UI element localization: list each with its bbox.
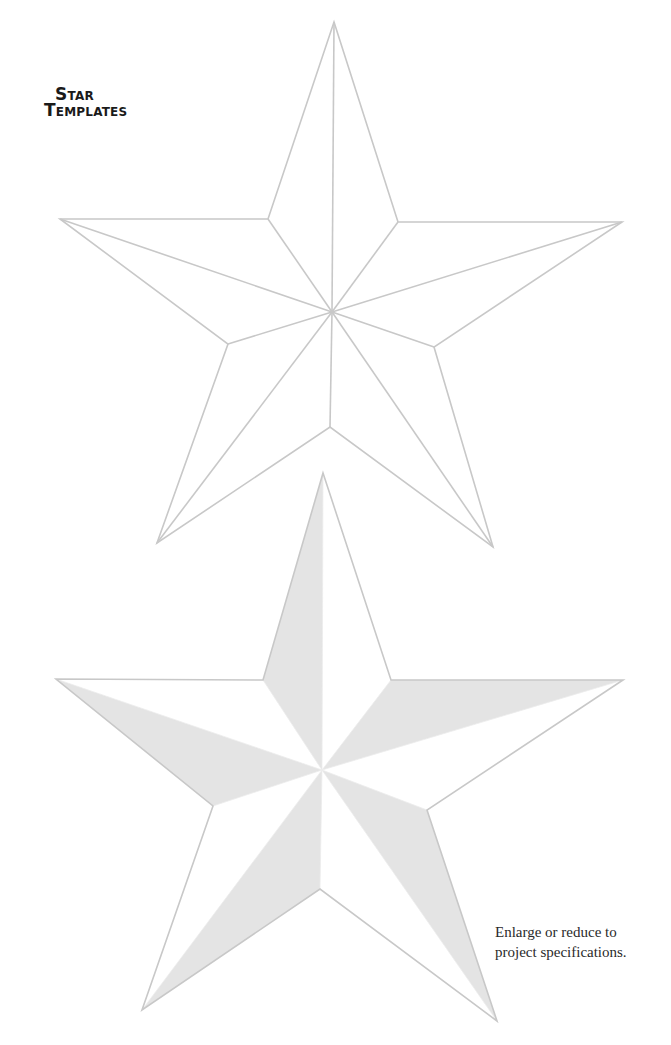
spoke-bottom-right <box>332 312 493 547</box>
spoke-inner-upper-right <box>332 222 398 312</box>
spoke-inner-upper-left <box>268 219 332 312</box>
spoke-left <box>60 219 332 312</box>
spoke-inner-lower-right <box>332 312 434 347</box>
outline-star-template <box>60 22 622 547</box>
spoke-bottom-left <box>157 312 332 543</box>
caption-line-2: project specifications. <box>495 942 627 962</box>
outline-star-border <box>60 22 622 547</box>
spoke-inner-bottom <box>330 312 332 427</box>
spoke-inner-lower-left <box>228 312 332 344</box>
spoke-right <box>332 222 622 312</box>
caption-line-1: Enlarge or reduce to <box>495 922 627 942</box>
star-templates-artwork <box>0 0 671 1045</box>
resize-instructions: Enlarge or reduce to project specificati… <box>495 922 627 962</box>
spoke-top <box>332 22 334 312</box>
star-templates-page: Star Templates <box>0 0 671 1045</box>
